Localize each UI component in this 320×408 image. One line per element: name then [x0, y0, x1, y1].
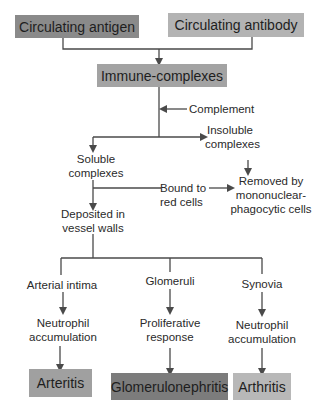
- circulating-antigen-box: Circulating antigen: [15, 15, 139, 38]
- neutrophil-accumulation-right-label: Neutrophil accumulation: [227, 318, 297, 346]
- proliferative-response-label: Proliferative response: [135, 316, 205, 344]
- antibody-connector: [159, 36, 252, 49]
- neutrophil-left-line-1: Neutrophil: [28, 316, 98, 330]
- antigen-connector: [63, 38, 159, 49]
- bound-to-red-cells-label: Bound to red cells: [160, 181, 210, 209]
- removed-line-3: phagocytic cells: [229, 202, 313, 216]
- deposited-line-1: Deposited in: [58, 207, 128, 221]
- removed-line-1: Removed by: [229, 174, 313, 188]
- bound-line-2: red cells: [160, 195, 210, 209]
- glomerulonephritis-box: Glomerulonephritis: [111, 373, 228, 400]
- arteritis-box: Arteritis: [29, 369, 92, 397]
- bound-line-1: Bound to: [160, 181, 210, 195]
- immune-complexes-box: Immune-complexes: [97, 64, 227, 87]
- arterial-intima-label: Arterial intima: [22, 278, 102, 292]
- soluble-line-1: Soluble: [68, 152, 124, 166]
- synovia-label: Synovia: [232, 277, 292, 291]
- circulating-antibody-box: Circulating antibody: [168, 13, 304, 37]
- neutrophil-right-line-1: Neutrophil: [227, 318, 297, 332]
- insoluble-complexes-label: Insoluble complexes: [205, 123, 255, 151]
- soluble-line-2: complexes: [68, 166, 124, 180]
- soluble-complexes-label: Soluble complexes: [68, 152, 124, 180]
- insoluble-line-2: complexes: [205, 137, 255, 151]
- glomeruli-label: Glomeruli: [140, 274, 200, 288]
- neutrophil-left-line-2: accumulation: [28, 330, 98, 344]
- removed-line-2: mononuclear-: [229, 188, 313, 202]
- insoluble-line-1: Insoluble: [205, 123, 255, 137]
- neutrophil-right-line-2: accumulation: [227, 332, 297, 346]
- proliferative-line-1: Proliferative: [135, 316, 205, 330]
- proliferative-line-2: response: [135, 330, 205, 344]
- complement-label: Complement: [189, 102, 254, 116]
- arthritis-box: Arthritis: [233, 373, 291, 400]
- deposited-line-2: vessel walls: [58, 221, 128, 235]
- neutrophil-accumulation-left-label: Neutrophil accumulation: [28, 316, 98, 344]
- removed-by-phagocytes-label: Removed by mononuclear- phagocytic cells: [229, 174, 313, 216]
- deposited-in-vessel-walls-label: Deposited in vessel walls: [58, 207, 128, 235]
